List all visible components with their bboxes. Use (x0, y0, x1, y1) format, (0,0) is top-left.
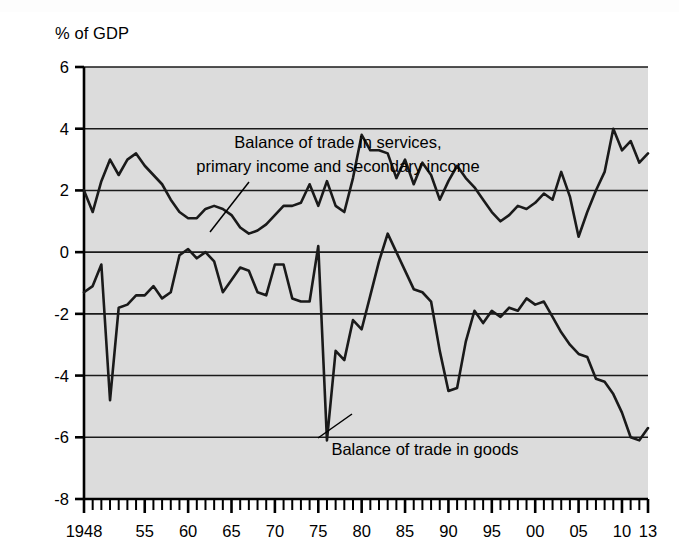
annotation-layer: Balance of trade in services, primary in… (0, 0, 679, 553)
annotation-services-line1: Balance of trade in services, (234, 133, 441, 151)
chart-figure: % of GDP 6420-2-4-6-8 194855606570758085… (0, 0, 679, 553)
annotation-services-line2: primary income and secondary income (196, 157, 479, 175)
annotation-goods: Balance of trade in goods (331, 440, 518, 458)
